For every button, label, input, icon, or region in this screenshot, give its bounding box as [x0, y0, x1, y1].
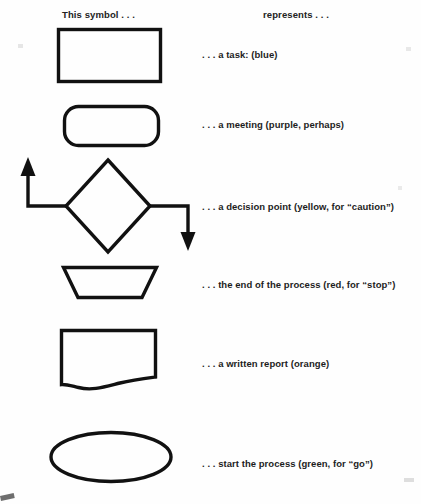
- scan-artifact-bottom-right: [404, 478, 414, 482]
- legend-label-task: . . . a task: (blue): [202, 49, 277, 60]
- legend-label-decision-point: . . . a decision point (yellow, for “cau…: [202, 201, 394, 212]
- scan-artifact-top-right: [406, 47, 411, 51]
- diamond-decision-shape-icon: [12, 154, 202, 258]
- scan-artifact-top-left: [18, 44, 23, 48]
- column-header-represents: represents . . .: [263, 9, 329, 20]
- rounded-rectangle-shape-icon: [56, 99, 168, 153]
- legend-label-written-report: . . . a written report (orange): [202, 358, 329, 369]
- legend-label-start-process: . . . start the process (green, for “go”…: [202, 458, 373, 469]
- ellipse-shape-icon: [42, 426, 182, 488]
- legend-label-meeting: . . . a meeting (purple, perhaps): [202, 119, 344, 130]
- column-header-this-symbol: This symbol . . .: [62, 9, 135, 20]
- flowchart-symbol-legend: This symbol . . . represents . . . . . .…: [0, 0, 421, 504]
- scan-artifact-bottom-left: [0, 493, 15, 501]
- document-shape-icon: [52, 322, 168, 396]
- trapezoid-shape-icon: [56, 259, 168, 307]
- legend-label-end-of-process: . . . the end of the process (red, for “…: [202, 279, 395, 290]
- rectangle-shape-icon: [50, 22, 170, 90]
- scan-artifact-middle-right: [398, 186, 402, 190]
